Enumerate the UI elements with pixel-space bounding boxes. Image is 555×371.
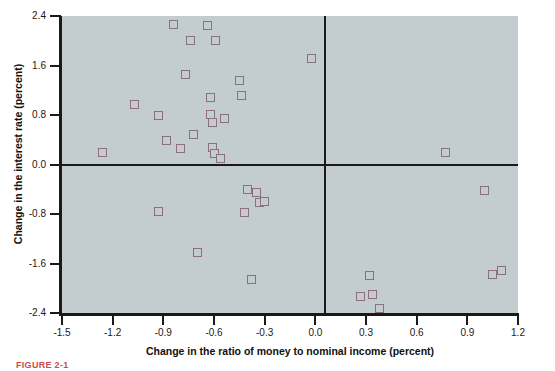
data-point xyxy=(162,136,171,145)
data-point xyxy=(375,304,384,313)
data-point xyxy=(154,207,163,216)
data-point xyxy=(237,91,246,100)
x-tick-mark xyxy=(416,316,418,325)
x-tick-label: 0.9 xyxy=(447,327,487,338)
y-tick-mark xyxy=(50,312,61,314)
data-point xyxy=(247,275,256,284)
data-point xyxy=(211,36,220,45)
x-tick-label: 0.0 xyxy=(295,327,335,338)
zero-line-horizontal xyxy=(62,164,518,166)
data-point xyxy=(235,76,244,85)
data-point xyxy=(368,290,377,299)
scatter-plot-figure: 2.41.60.80.0-0.8-1.6-2.4 -1.5-1.2-0.9-0.… xyxy=(0,0,555,371)
y-tick-mark xyxy=(50,15,61,17)
y-tick-mark xyxy=(50,164,61,166)
data-point xyxy=(130,100,139,109)
data-point xyxy=(154,111,163,120)
x-tick-mark xyxy=(466,316,468,325)
x-tick-label: 1.2 xyxy=(498,327,538,338)
data-point xyxy=(356,292,365,301)
y-tick-label: -2.4 xyxy=(14,308,46,318)
x-tick-mark xyxy=(264,316,266,325)
data-point xyxy=(240,208,249,217)
data-point xyxy=(193,248,202,257)
data-point xyxy=(169,20,178,29)
data-point xyxy=(206,93,215,102)
data-point xyxy=(216,154,225,163)
data-point xyxy=(208,118,217,127)
data-point xyxy=(189,130,198,139)
zero-line-vertical xyxy=(324,16,326,313)
x-tick-label: -1.2 xyxy=(93,327,133,338)
y-tick-mark xyxy=(50,263,61,265)
data-point xyxy=(480,186,489,195)
x-axis-label: Change in the ratio of money to nominal … xyxy=(62,345,518,357)
data-point xyxy=(181,70,190,79)
data-point xyxy=(497,266,506,275)
x-tick-mark xyxy=(314,316,316,325)
data-point xyxy=(98,148,107,157)
x-tick-mark xyxy=(213,316,215,325)
x-tick-label: 0.6 xyxy=(397,327,437,338)
figure-caption: FIGURE 2-1 xyxy=(16,360,69,370)
x-axis-line xyxy=(59,313,519,316)
x-tick-label: 0.3 xyxy=(346,327,386,338)
x-tick-label: -0.6 xyxy=(194,327,234,338)
data-point xyxy=(203,21,212,30)
data-point xyxy=(220,114,229,123)
data-point xyxy=(260,197,269,206)
y-tick-mark xyxy=(50,114,61,116)
y-tick-mark xyxy=(50,213,61,215)
data-point xyxy=(186,36,195,45)
data-point xyxy=(307,54,316,63)
data-point xyxy=(441,148,450,157)
y-tick-mark xyxy=(50,65,61,67)
x-tick-mark xyxy=(365,316,367,325)
x-tick-mark xyxy=(112,316,114,325)
x-tick-mark xyxy=(162,316,164,325)
x-tick-label: -1.5 xyxy=(42,327,82,338)
data-point xyxy=(176,144,185,153)
x-tick-mark xyxy=(61,316,63,325)
data-point xyxy=(365,271,374,280)
x-tick-label: -0.3 xyxy=(245,327,285,338)
y-axis-label: Change in the interest rate (percent) xyxy=(12,4,24,304)
x-tick-mark xyxy=(517,316,519,325)
x-tick-label: -0.9 xyxy=(143,327,183,338)
